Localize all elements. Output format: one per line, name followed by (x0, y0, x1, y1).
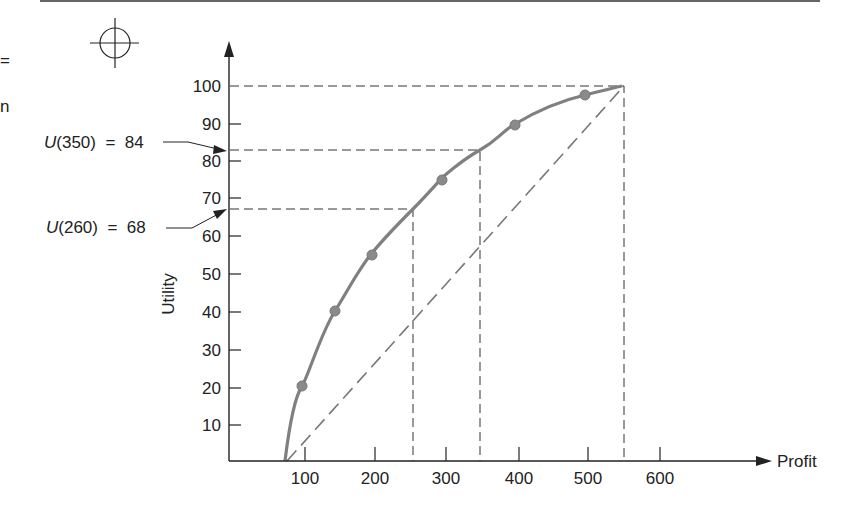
y-axis-arrow-icon (224, 41, 234, 57)
axes (229, 52, 758, 461)
x-tick-labels: 100 200 300 400 500 600 (291, 469, 674, 488)
point-200-55 (367, 250, 377, 260)
svg-text:600: 600 (646, 469, 674, 488)
point-500-97 (580, 90, 590, 100)
margin-fragment-n: n (0, 97, 9, 116)
point-300-75 (437, 175, 447, 185)
utility-chart: = n 10 20 30 40 (0, 0, 845, 513)
svg-text:200: 200 (361, 469, 389, 488)
svg-text:100: 100 (291, 469, 319, 488)
guide-line-100 (230, 86, 624, 461)
y-axis-label: Utility (159, 273, 178, 315)
svg-text:40: 40 (202, 303, 221, 322)
arrow-head-icon (213, 209, 227, 219)
x-ticks (305, 447, 660, 461)
point-150-40 (330, 306, 340, 316)
data-points (297, 90, 590, 391)
svg-text:20: 20 (202, 379, 221, 398)
svg-text:500: 500 (574, 469, 602, 488)
svg-text:400: 400 (505, 469, 533, 488)
y-tick-labels: 10 20 30 40 50 60 70 80 90 100 (193, 77, 221, 435)
svg-text:60: 60 (202, 227, 221, 246)
svg-text:90: 90 (202, 115, 221, 134)
x-axis-label: Profit (777, 452, 817, 471)
svg-text:80: 80 (202, 152, 221, 171)
svg-text:70: 70 (202, 189, 221, 208)
point-95-20 (297, 381, 307, 391)
svg-text:U(350) = 84: U(350) = 84 (44, 133, 144, 152)
annotation-u260: U(260) = 68 (46, 209, 227, 237)
annotation-u350: U(350) = 84 (44, 133, 227, 154)
x-axis-arrow-icon (756, 456, 772, 466)
registration-mark-icon (90, 18, 139, 68)
linear-reference-line (287, 86, 624, 461)
svg-text:300: 300 (432, 469, 460, 488)
svg-text:U(260) = 68: U(260) = 68 (46, 218, 146, 237)
y-ticks (229, 124, 241, 425)
margin-fragment-equals: = (0, 51, 10, 70)
point-400-90 (510, 120, 520, 130)
svg-text:10: 10 (202, 416, 221, 435)
utility-curve (285, 86, 622, 461)
svg-text:100: 100 (193, 77, 221, 96)
guide-lines (230, 86, 624, 461)
svg-text:50: 50 (202, 265, 221, 284)
svg-text:30: 30 (202, 341, 221, 360)
guide-line-350 (230, 150, 480, 461)
